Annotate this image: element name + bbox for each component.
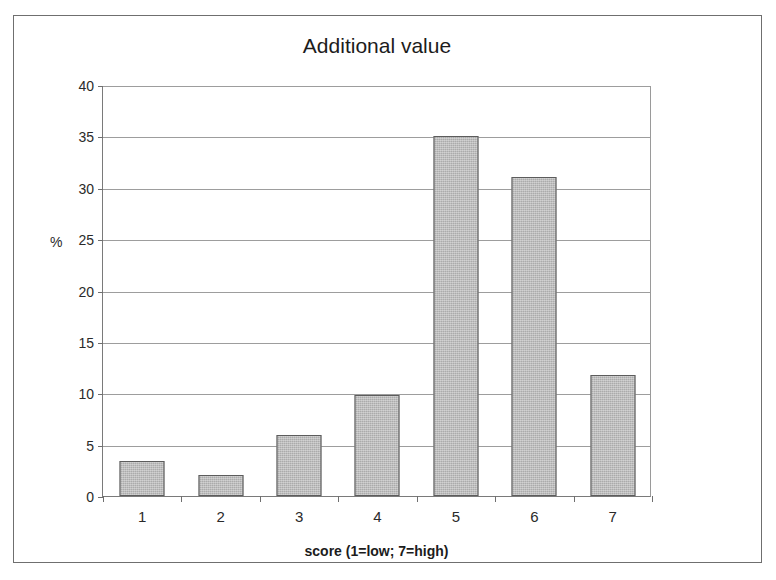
x-axis-tick-label: 2 (216, 508, 224, 525)
bar[interactable] (433, 136, 478, 496)
x-axis-tick (652, 496, 653, 502)
y-axis-title: % (50, 234, 62, 250)
x-axis-tick (574, 496, 575, 502)
y-axis-tick-label: 10 (78, 386, 94, 402)
bar[interactable] (120, 461, 165, 496)
y-axis-tick-label: 35 (78, 129, 94, 145)
x-axis-tick (338, 496, 339, 502)
bar-slot (417, 86, 495, 496)
x-axis-tick-label: 7 (609, 508, 617, 525)
x-axis-tick-label: 6 (530, 508, 538, 525)
x-axis-tick (103, 496, 104, 502)
x-axis-tick-label: 4 (373, 508, 381, 525)
y-axis-tick-label: 30 (78, 181, 94, 197)
x-axis-title: score (1=low; 7=high) (102, 543, 651, 559)
y-axis-tick-label: 20 (78, 284, 94, 300)
y-axis-tick-label: 0 (86, 489, 94, 505)
y-axis-tick-label: 40 (78, 78, 94, 94)
x-axis-tick (417, 496, 418, 502)
bar[interactable] (355, 395, 400, 496)
chart-title-wrapper: Additional value (102, 34, 652, 58)
x-axis-tick (260, 496, 261, 502)
x-axis-tick (181, 496, 182, 502)
bar-slot (574, 86, 652, 496)
chart-title: Additional value (303, 34, 451, 57)
bar[interactable] (277, 435, 322, 496)
bar-slot (260, 86, 338, 496)
bar-slot (103, 86, 181, 496)
plot-inner: 0510152025303540 1234567 (102, 86, 651, 497)
y-axis-tick-label: 25 (78, 232, 94, 248)
y-axis-tick-label: 5 (86, 438, 94, 454)
bar-slot (495, 86, 573, 496)
bar[interactable] (512, 177, 557, 496)
bar-slot (181, 86, 259, 496)
bar[interactable] (198, 475, 243, 496)
bar-slot (338, 86, 416, 496)
y-axis-tick-label: 15 (78, 335, 94, 351)
bar[interactable] (590, 375, 635, 496)
x-axis-tick-label: 3 (295, 508, 303, 525)
x-axis-tick (495, 496, 496, 502)
plot-area: 0510152025303540 1234567 (102, 71, 651, 497)
chart-frame: Additional value % 0510152025303540 1234… (13, 15, 762, 563)
x-axis-tick-label: 1 (138, 508, 146, 525)
x-axis-tick-label: 5 (452, 508, 460, 525)
